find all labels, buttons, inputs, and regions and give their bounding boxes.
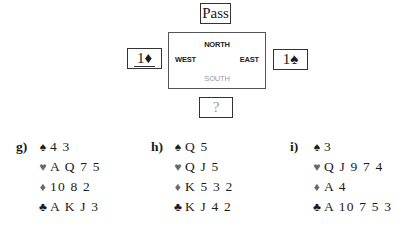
hand-label: g) bbox=[16, 137, 27, 156]
bridge-table: NORTH WEST EAST SOUTH bbox=[168, 32, 266, 89]
diamond-icon: ♦ bbox=[311, 178, 324, 197]
west-bid: 1♦ bbox=[134, 51, 155, 67]
heart-icon: ♥ bbox=[37, 158, 50, 177]
west-bid-box: 1♦ bbox=[127, 48, 162, 69]
hand-label: i) bbox=[290, 137, 298, 156]
hand-g: g)♠4 3 ♥A Q 7 5 ♦10 8 2 ♣A K J 3 bbox=[37, 137, 101, 217]
clubs-holding: A K J 3 bbox=[50, 199, 99, 214]
club-icon: ♣ bbox=[172, 198, 185, 217]
spades-holding: 4 3 bbox=[50, 139, 70, 154]
diamonds-holding: K 5 3 2 bbox=[185, 179, 234, 194]
hearts-holding: A Q 7 5 bbox=[50, 159, 101, 174]
clubs-holding: K J 4 2 bbox=[185, 199, 232, 214]
club-icon: ♣ bbox=[311, 198, 324, 217]
diamond-icon: ♦ bbox=[172, 178, 185, 197]
east-label: EAST bbox=[240, 55, 259, 64]
east-bid: 1♠ bbox=[283, 51, 298, 68]
north-bid-box: Pass bbox=[200, 3, 231, 24]
heart-icon: ♥ bbox=[172, 158, 185, 177]
south-bid: ? bbox=[213, 99, 220, 116]
spade-icon: ♠ bbox=[37, 138, 50, 157]
spades-holding: 3 bbox=[324, 139, 332, 154]
south-label: SOUTH bbox=[169, 74, 265, 83]
spade-icon: ♠ bbox=[172, 138, 185, 157]
hand-h: h)♠Q 5 ♥Q J 5 ♦K 5 3 2 ♣K J 4 2 bbox=[172, 137, 234, 217]
hand-i: i)♠3 ♥Q J 9 7 4 ♦A 4 ♣A 10 7 5 3 bbox=[311, 137, 392, 217]
hearts-holding: Q J 9 7 4 bbox=[324, 159, 384, 174]
east-bid-box: 1♠ bbox=[273, 49, 308, 70]
hand-label: h) bbox=[151, 137, 163, 156]
spade-icon: ♠ bbox=[311, 138, 324, 157]
diamond-icon: ♦ bbox=[37, 178, 50, 197]
diamonds-holding: A 4 bbox=[324, 179, 347, 194]
club-icon: ♣ bbox=[37, 198, 50, 217]
clubs-holding: A 10 7 5 3 bbox=[324, 199, 392, 214]
heart-icon: ♥ bbox=[311, 158, 324, 177]
diamonds-holding: 10 8 2 bbox=[50, 179, 91, 194]
north-label: NORTH bbox=[169, 40, 265, 49]
hearts-holding: Q J 5 bbox=[185, 159, 220, 174]
west-label: WEST bbox=[175, 55, 196, 64]
south-bid-box: ? bbox=[199, 97, 233, 118]
north-bid: Pass bbox=[202, 5, 229, 22]
spades-holding: Q 5 bbox=[185, 139, 208, 154]
